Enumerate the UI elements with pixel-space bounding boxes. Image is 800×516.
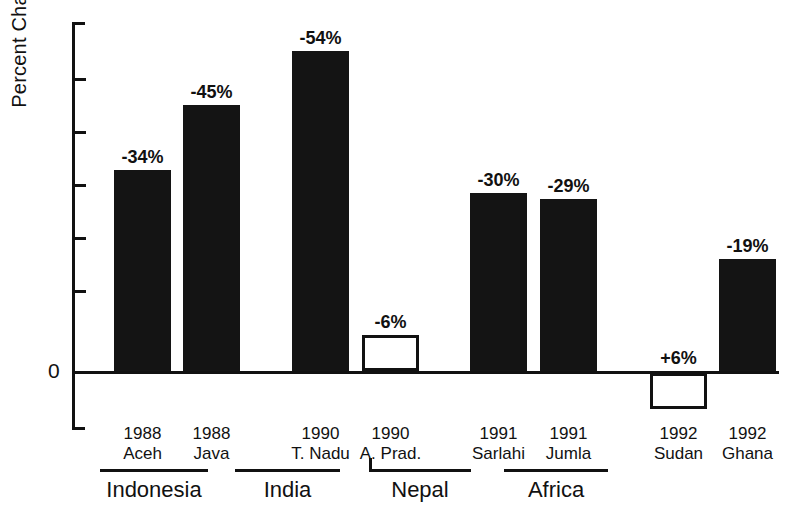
bar-value-label: +6% (636, 349, 721, 367)
plot-area: -34%1988Aceh-45%1988Java-54%1990T. Nadu-… (0, 0, 800, 516)
bar-aceh (114, 170, 171, 371)
category-year: 1988 (165, 424, 258, 444)
group-name-africa: Africa (474, 477, 638, 503)
category-year: 1992 (701, 424, 794, 444)
bar-chart-figure: Percent Change 0 -34%1988Aceh-45%1988Jav… (0, 0, 800, 516)
group-rule (504, 469, 608, 472)
category-year: 1990 (344, 424, 437, 444)
bar-value-label: -6% (348, 313, 433, 331)
group-rule-start-tick (369, 458, 372, 472)
bar-value-label: -29% (526, 177, 611, 195)
bar-jumla (540, 199, 597, 371)
bar-ghana (719, 259, 776, 371)
bar-t-nadu (292, 51, 349, 371)
category-place: A. Prad. (344, 444, 437, 464)
bar-value-label: -45% (169, 83, 254, 101)
bar-java (183, 105, 240, 371)
bar-value-label: -19% (705, 237, 790, 255)
bar-value-label: -54% (278, 29, 363, 47)
category-label: 1992Ghana (701, 424, 794, 464)
category-place: Java (165, 444, 258, 464)
category-year: 1991 (522, 424, 615, 444)
group-rule (235, 469, 340, 472)
bar-value-label: -34% (100, 148, 185, 166)
bar-sudan (650, 373, 707, 409)
bar-a-prad (362, 335, 419, 371)
bar-sarlahi (470, 193, 527, 371)
category-place: Ghana (701, 444, 794, 464)
category-place: Jumla (522, 444, 615, 464)
category-label: 1990A. Prad. (344, 424, 437, 464)
group-rule (369, 469, 471, 472)
category-label: 1988Java (165, 424, 258, 464)
category-label: 1991Jumla (522, 424, 615, 464)
group-rule (100, 469, 208, 472)
